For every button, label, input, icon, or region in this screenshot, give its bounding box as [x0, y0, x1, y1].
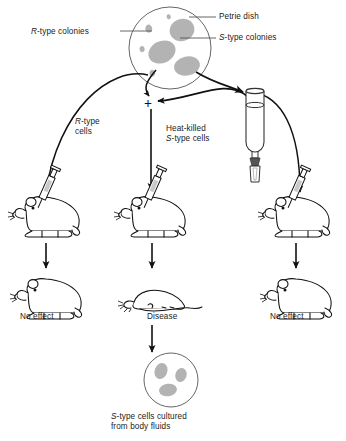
label-r-type-cells: R-typecells	[75, 117, 100, 138]
label-no-effect-left: No effect	[20, 312, 54, 322]
diagram-svg	[0, 0, 346, 441]
plus-sign: +	[144, 96, 152, 112]
petrie-dish	[129, 7, 211, 89]
test-tube	[246, 88, 264, 182]
label-petrie-dish: Petrie dish	[219, 12, 259, 22]
figure-canvas: R-type colonies Petrie dish S-type colon…	[0, 0, 346, 441]
label-s-type-cells-cultured: S-type cells culturedfrom body fluids	[111, 412, 187, 433]
culture-dish	[144, 353, 198, 407]
live-mouse	[8, 165, 80, 237]
tube-nozzle	[252, 152, 258, 158]
label-disease: Disease	[147, 312, 177, 322]
label-heat-killed-s-type-cells: Heat-killedS-type cells	[166, 124, 210, 145]
label-s-type-colonies: S-type colonies	[219, 33, 276, 43]
dead-mouse	[118, 290, 202, 312]
arrow-tube-to-plus	[158, 89, 247, 101]
live-mouse	[114, 165, 186, 237]
label-r-type-colonies: R-type colonies	[31, 27, 89, 37]
label-no-effect-right: No effect	[270, 312, 304, 322]
live-mouse	[258, 165, 330, 237]
